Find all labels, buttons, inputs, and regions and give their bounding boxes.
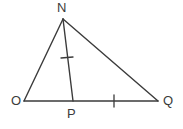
triangle-segments — [24, 19, 158, 101]
vertex-label-p: P — [67, 107, 76, 120]
geometry-figure: N O P Q — [0, 0, 183, 129]
vertex-label-q: Q — [163, 94, 173, 107]
segment-NO — [24, 19, 63, 101]
segment-NQ — [63, 19, 158, 101]
vertex-label-o: O — [11, 94, 21, 107]
segment-NP — [63, 19, 73, 101]
vertex-label-n: N — [57, 1, 67, 14]
tick-mark-segment-np — [61, 57, 73, 58]
triangle-diagram-svg — [0, 0, 183, 129]
